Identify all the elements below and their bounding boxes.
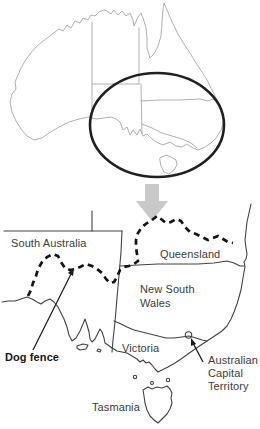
state-border-nsw-vic-small — [142, 124, 197, 148]
tasmania-outline — [143, 386, 172, 423]
label-queensland: Queensland — [160, 248, 220, 261]
label-new-south-wales: New South Wales — [140, 282, 195, 310]
label-tasmania: Tasmania — [92, 401, 140, 414]
label-nsw-line1: New South — [140, 282, 195, 296]
bass-islet-2 — [151, 382, 154, 385]
label-south-australia: South Australia — [11, 237, 87, 250]
small-islet — [97, 349, 101, 352]
label-victoria: Victoria — [122, 342, 159, 355]
border-nsw-vic — [114, 321, 207, 341]
tasmania-outline-small — [160, 155, 177, 174]
state-border-sa-east — [141, 84, 142, 134]
bass-islet-1 — [133, 375, 136, 378]
zoom-arrow-icon — [136, 184, 168, 221]
label-act-line3: Territory — [208, 380, 258, 393]
dog-fence-arrow — [33, 268, 74, 350]
kangaroo-island — [77, 344, 88, 350]
act-circle — [185, 332, 191, 338]
label-dog-fence: Dog fence — [5, 351, 59, 364]
state-border-qld-nsw-small — [141, 99, 217, 102]
dog-fence-map-figure: South Australia Queensland New South Wal… — [0, 0, 260, 429]
label-act-line2: Capital — [208, 367, 258, 380]
label-nsw-line2: Wales — [140, 296, 195, 310]
border-sa-east — [112, 231, 122, 352]
overview-map — [10, 3, 224, 174]
label-act-line1: Australian — [208, 354, 258, 367]
highlight-ellipse — [90, 73, 224, 177]
australia-coastline — [10, 3, 224, 150]
label-australian-capital-territory: Australian Capital Territory — [208, 354, 258, 393]
bass-islet-3 — [166, 378, 169, 381]
